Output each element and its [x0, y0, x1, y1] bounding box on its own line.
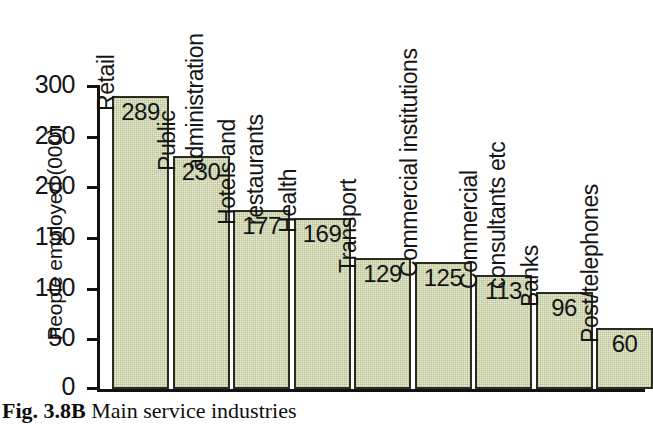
category-label-public-administration: Publicadministration: [156, 111, 179, 171]
y-tick-100: 100: [87, 288, 98, 291]
category-label-line: Retail: [93, 55, 119, 111]
category-label-line: Commercial institutions: [396, 49, 422, 278]
figure-caption: Fig. 3.8B Main service industries: [2, 398, 297, 424]
y-tick-label-0: 0: [62, 372, 75, 401]
y-tick-label-50: 50: [48, 323, 75, 352]
bar-post-telephones: 60: [596, 328, 653, 389]
plot-area: 300 250 200 150 100 50 0 289230177169129…: [97, 85, 645, 389]
category-label-line: Public: [154, 111, 180, 171]
figure-number: Fig. 3.8B: [2, 398, 86, 423]
category-label-line: Banks: [517, 245, 543, 307]
y-tick-label-100: 100: [35, 273, 75, 302]
category-label-retail: Retail: [95, 55, 118, 111]
y-tick-label-250: 250: [35, 121, 75, 150]
y-tick-200: 200: [87, 186, 98, 189]
category-label-hotels-and-restaurants: Hotels andrestaurants: [216, 119, 239, 225]
y-tick-label-300: 300: [35, 70, 75, 99]
bar-hotels-and-restaurants: 177: [233, 210, 290, 389]
category-label-line: restaurants: [244, 114, 267, 225]
y-tick-250: 250: [87, 136, 98, 139]
figure-caption-title: Main service industries: [91, 398, 296, 423]
category-label-post-telephones: Post/telephones: [579, 184, 602, 343]
y-tick-50: 50: [87, 338, 98, 341]
y-tick-0: 0: [87, 387, 98, 390]
y-tick-150: 150: [87, 237, 98, 240]
category-label-line: administration: [184, 33, 207, 171]
x-axis-line: [97, 389, 645, 392]
y-tick-label-200: 200: [35, 171, 75, 200]
category-label-line: Commercial: [456, 171, 482, 290]
y-tick-label-150: 150: [35, 222, 75, 251]
category-label-transport: Transport: [337, 179, 360, 273]
category-label-commercial-institutions: Commercial institutions: [398, 49, 421, 278]
bar-value-label: 60: [598, 331, 651, 356]
category-label-banks: Banks: [519, 245, 542, 307]
category-label-health: Health: [277, 169, 300, 233]
category-label-commercial-consultants-etc: Commercialconsultants etc: [458, 171, 481, 290]
category-label-line: Health: [275, 169, 301, 233]
category-label-line: Post/telephones: [577, 184, 603, 343]
category-label-line: consultants etc: [486, 142, 509, 289]
bar-transport: 129: [354, 258, 411, 389]
category-label-line: Hotels and: [214, 119, 240, 225]
category-label-line: Transport: [335, 179, 361, 273]
